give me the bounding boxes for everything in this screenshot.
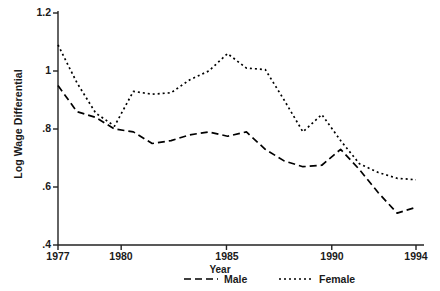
- y-tick-label-0.8: .8: [6, 122, 51, 134]
- x-tick-label-1980: 1980: [96, 250, 146, 262]
- x-axis-label: Year: [0, 264, 440, 275]
- y-tick-label-1: 1: [6, 64, 51, 76]
- x-tick-label-1985: 1985: [202, 250, 252, 262]
- y-tick-label-1.2: 1.2: [6, 6, 51, 18]
- legend-label-male: Male: [224, 273, 247, 285]
- x-tick-label-1977: 1977: [33, 250, 83, 262]
- y-tick-label-0.6: .6: [6, 180, 51, 192]
- x-tick-label-1994: 1994: [391, 250, 440, 262]
- chart-figure: Log Wage Differential Year 1.2 1 .8 .6 .…: [0, 0, 440, 291]
- series-line-female: [58, 45, 416, 180]
- chart-plot-area: [0, 0, 440, 291]
- series-line-male: [58, 86, 416, 214]
- legend-label-female: Female: [319, 273, 355, 285]
- x-tick-label-1990: 1990: [307, 250, 357, 262]
- y-axis-ticks: [53, 13, 58, 245]
- y-tick-label-0.4: .4: [6, 238, 51, 250]
- chart-series-group: [58, 45, 416, 213]
